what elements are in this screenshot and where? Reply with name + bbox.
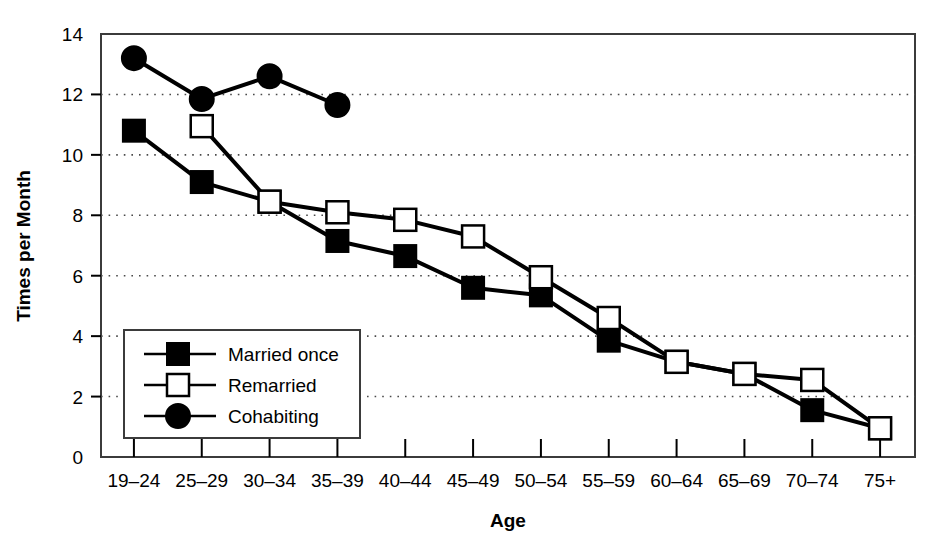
data-point-marker	[801, 399, 823, 421]
legend-item-label: Remarried	[228, 375, 317, 396]
x-tick-label: 65–69	[718, 470, 771, 491]
data-point-marker	[258, 64, 282, 88]
line-chart: 02468101214 19–2425–2930–3435–3940–4445–…	[0, 0, 947, 556]
data-point-marker	[801, 369, 823, 391]
x-tick-label: 25–29	[175, 470, 228, 491]
y-tick-label: 12	[62, 84, 83, 105]
legend-marker-filled-circle	[166, 404, 190, 428]
y-tick-label: 8	[72, 205, 83, 226]
y-axis-title: Times per Month	[13, 170, 34, 322]
data-point-marker	[123, 120, 145, 142]
x-tick-label: 40–44	[379, 470, 432, 491]
y-tick-label: 2	[72, 387, 83, 408]
chart-figure: 02468101214 19–2425–2930–3435–3940–4445–…	[0, 0, 947, 556]
data-point-marker	[394, 245, 416, 267]
legend-marker-open-square	[167, 374, 189, 396]
x-tick-label: 19–24	[107, 470, 160, 491]
data-point-marker	[462, 225, 484, 247]
x-tick-label: 60–64	[650, 470, 703, 491]
legend-item-label: Cohabiting	[228, 406, 319, 427]
data-point-marker	[598, 307, 620, 329]
x-tick-label: 45–49	[447, 470, 500, 491]
data-point-marker	[190, 87, 214, 111]
data-point-marker	[666, 351, 688, 373]
x-tick-label: 50–54	[514, 470, 567, 491]
data-point-marker	[326, 201, 348, 223]
data-point-marker	[122, 46, 146, 70]
data-point-marker	[394, 209, 416, 231]
x-axis-title: Age	[490, 510, 526, 531]
y-tick-label: 0	[72, 447, 83, 468]
chart-legend: Married onceRemarriedCohabiting	[124, 330, 360, 438]
x-tick-label: 30–34	[243, 470, 296, 491]
data-point-marker	[325, 93, 349, 117]
data-point-marker	[530, 266, 552, 288]
legend-item-label: Married once	[228, 344, 339, 365]
data-point-marker	[191, 115, 213, 137]
x-tick-label: 55–59	[582, 470, 635, 491]
legend-marker-filled-square	[167, 343, 189, 365]
data-point-marker	[191, 171, 213, 193]
data-point-marker	[598, 330, 620, 352]
data-point-marker	[326, 230, 348, 252]
x-tick-label: 35–39	[311, 470, 364, 491]
data-point-marker	[462, 277, 484, 299]
data-point-marker	[733, 363, 755, 385]
y-tick-label: 6	[72, 266, 83, 287]
x-tick-label: 70–74	[786, 470, 839, 491]
y-tick-label: 4	[72, 326, 83, 347]
y-tick-label: 14	[62, 24, 84, 45]
x-tick-label: 75+	[864, 470, 896, 491]
data-point-marker	[869, 417, 891, 439]
y-tick-label: 10	[62, 145, 83, 166]
data-point-marker	[259, 191, 281, 213]
